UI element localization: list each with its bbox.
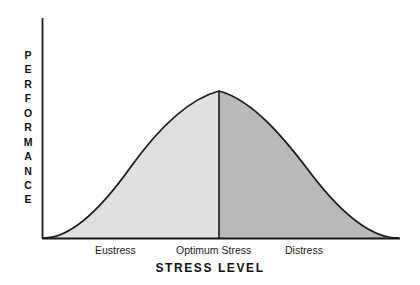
x-tick-label-optimum-stress: Optimum Stress [176, 245, 251, 256]
x-axis-title: STRESS LEVEL [0, 262, 420, 274]
x-tick-label-distress: Distress [285, 245, 323, 256]
x-tick-label-eustress: Eustress [95, 245, 136, 256]
yerkes-dodson-chart: P E R F O R M A N C E [0, 0, 420, 285]
plot-area [0, 0, 420, 285]
